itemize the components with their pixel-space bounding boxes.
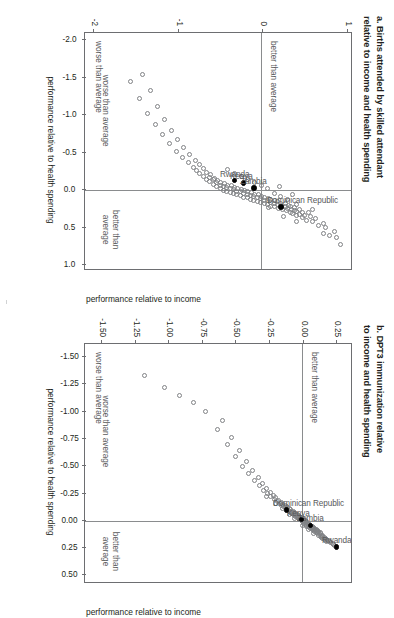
- data-point: [220, 418, 225, 423]
- data-point: [145, 111, 150, 116]
- data-point: [264, 494, 269, 499]
- data-point: [203, 409, 208, 414]
- panel-a-plot-frame: Dominican RepublicKenyaZambiaRwandabette…: [84, 32, 352, 270]
- data-point: [240, 464, 245, 469]
- y-axis-tick: [303, 340, 304, 344]
- y-axis-tick-label: 1: [344, 0, 353, 26]
- x-axis-note-worse-than-average: worse than average: [100, 391, 110, 471]
- data-point: [250, 468, 255, 473]
- page-registration-mark: [6, 300, 7, 304]
- y-axis-tick-label: -0.25: [266, 307, 275, 337]
- x-axis-note-worse-than-average: worse than average: [100, 71, 110, 151]
- y-axis-tick-label: 0.25: [333, 307, 342, 337]
- data-point: [225, 442, 230, 447]
- x-axis-note-better-than-average: better than average: [100, 526, 120, 576]
- y-axis-tick-label: -1.50: [98, 307, 107, 337]
- country-label: Kenya: [287, 509, 310, 518]
- x-axis-tick-label: -0.75: [52, 433, 88, 442]
- data-point: [201, 166, 206, 171]
- data-point: [297, 207, 302, 212]
- data-point: [323, 225, 328, 230]
- reference-line-horizontal: [302, 344, 303, 582]
- highlighted-data-point: [284, 507, 289, 512]
- data-point: [160, 132, 165, 137]
- highlighted-data-point: [334, 544, 339, 549]
- x-axis-tick-label: 0.0: [52, 185, 88, 194]
- x-axis-tick-label: -1.25: [52, 379, 88, 388]
- data-point: [181, 145, 186, 150]
- data-point: [186, 160, 191, 165]
- data-point: [244, 459, 249, 464]
- data-point: [162, 385, 167, 390]
- two-panel-figure: a. Births attended by skilled attendant …: [0, 0, 394, 618]
- y-axis-tick-label: -1: [175, 0, 184, 26]
- x-axis-tick-label: -1.00: [52, 406, 88, 415]
- data-point: [169, 128, 174, 133]
- y-axis-title: performance relative to health spending: [46, 76, 56, 223]
- y-axis-tick: [202, 340, 203, 344]
- data-point: [264, 486, 269, 491]
- panel-b-plot-area: RwandaZambiaKenyaDominican Republicbette…: [85, 344, 351, 582]
- data-point: [193, 158, 198, 163]
- y-axis-tick: [336, 340, 337, 344]
- x-axis-tick-label: 0.5: [52, 222, 88, 231]
- y-axis-tick: [101, 340, 102, 344]
- figure-rotated-stage: a. Births attended by skilled attendant …: [0, 0, 394, 618]
- y-axis-tick: [168, 340, 169, 344]
- data-point: [233, 454, 238, 459]
- panel-a-title-line1: a. Births attended by skilled attendant: [374, 16, 387, 296]
- data-point: [140, 72, 145, 77]
- data-point: [187, 152, 192, 157]
- y-axis-tick: [135, 340, 136, 344]
- data-point: [281, 214, 286, 219]
- data-point: [268, 490, 273, 495]
- reference-line-horizontal: [261, 33, 262, 269]
- data-point: [229, 435, 234, 440]
- data-point: [128, 79, 133, 84]
- y-axis-tick-label: -1.25: [132, 307, 141, 337]
- y-axis-tick: [269, 340, 270, 344]
- panel-a-title-line2: relative to income and health spending: [361, 16, 374, 296]
- country-label: Dominican Republic: [273, 499, 344, 508]
- data-point: [256, 475, 261, 480]
- x-axis-tick-label: 0.25: [52, 543, 88, 552]
- x-axis-note-better-than-average: better than average: [100, 205, 120, 255]
- data-point: [191, 400, 196, 405]
- y-axis-tick: [178, 29, 179, 33]
- data-point: [332, 229, 337, 234]
- panel-b-plot-frame: RwandaZambiaKenyaDominican Republicbette…: [84, 343, 352, 583]
- data-point: [277, 184, 282, 189]
- y-axis-tick-label: -1.00: [165, 307, 174, 337]
- data-point: [321, 231, 326, 236]
- panel-a-title: a. Births attended by skilled attendant …: [361, 16, 386, 296]
- x-axis-tick-label: -0.50: [52, 461, 88, 470]
- x-axis-tick-label: -0.25: [52, 488, 88, 497]
- data-point: [191, 165, 196, 170]
- quadrant-note-better-than-average-upper: better than average: [268, 41, 278, 112]
- quadrant-note-better-than-average-upper: better than average: [309, 352, 319, 423]
- data-point: [313, 216, 318, 221]
- country-label: Rwanda: [220, 170, 249, 179]
- data-point: [177, 393, 182, 398]
- x-axis-tick-label: 1.0: [52, 260, 88, 269]
- y-axis-tick: [93, 29, 94, 33]
- y-axis-tick-label: -2: [90, 0, 99, 26]
- y-axis-tick-label: -0.50: [232, 307, 241, 337]
- x-axis-tick-label: -1.0: [52, 110, 88, 119]
- y-axis-tick: [347, 29, 348, 33]
- x-axis-title: performance relative to income: [86, 294, 201, 304]
- panel-b-title: b. DPT3 immunization relative to income …: [361, 325, 386, 605]
- panel-a-plot-area: Dominican RepublicKenyaZambiaRwandabette…: [85, 33, 351, 269]
- data-point: [148, 88, 153, 93]
- y-axis-tick: [262, 29, 263, 33]
- data-point: [327, 233, 332, 238]
- y-axis-tick-label: -0.75: [199, 307, 208, 337]
- data-point: [311, 531, 316, 536]
- data-point: [155, 104, 160, 109]
- data-point: [338, 242, 343, 247]
- x-axis-tick-label: -1.50: [52, 352, 88, 361]
- data-point: [216, 427, 221, 432]
- data-point: [300, 523, 305, 528]
- data-point: [294, 219, 299, 224]
- country-label: Rwanda: [322, 536, 351, 545]
